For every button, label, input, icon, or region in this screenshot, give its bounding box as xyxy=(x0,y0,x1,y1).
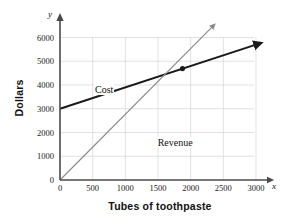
x-axis-title: Tubes of toothpaste xyxy=(60,200,260,212)
y-axis-name: y xyxy=(48,9,52,19)
x-tick-label: 2500 xyxy=(206,183,240,193)
y-tick-label: 3000 xyxy=(24,104,54,114)
y-tick-label: 5000 xyxy=(24,56,54,66)
x-tick-label: 1000 xyxy=(108,183,142,193)
gridlines xyxy=(60,37,256,180)
y-tick-label: 4000 xyxy=(24,80,54,90)
series-label-cost: Cost xyxy=(94,84,114,95)
annotation-points xyxy=(180,66,185,71)
series-line-revenue xyxy=(60,27,212,180)
chart-figure: Dollars Tubes of toothpaste 010002000300… xyxy=(0,0,291,221)
x-tick-label: 500 xyxy=(76,183,110,193)
x-axis-name: x xyxy=(272,181,276,191)
y-tick-label: 1000 xyxy=(24,151,54,161)
y-tick-label: 6000 xyxy=(24,33,54,43)
y-axis-title: Dollars xyxy=(13,63,25,133)
break-even-point xyxy=(180,66,185,71)
series-label-revenue: Revenue xyxy=(157,137,194,148)
y-tick-label: 2000 xyxy=(24,128,54,138)
x-tick-label: 1500 xyxy=(141,183,175,193)
x-tick-label: 3000 xyxy=(239,183,273,193)
x-tick-label: 0 xyxy=(43,183,77,193)
x-tick-label: 2000 xyxy=(174,183,208,193)
